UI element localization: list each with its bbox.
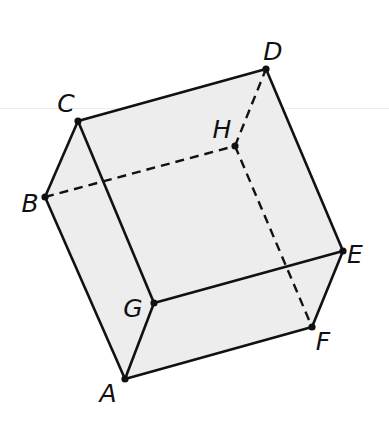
vertex-label-b: B <box>21 191 38 216</box>
vertex-B <box>41 193 48 200</box>
vertex-F <box>308 323 315 330</box>
vertex-D <box>262 65 269 72</box>
vertex-A <box>121 375 128 382</box>
vertex-G <box>150 299 157 306</box>
prism-fill <box>45 69 343 379</box>
vertex-E <box>339 247 346 254</box>
vertex-label-f: F <box>316 329 330 354</box>
vertex-C <box>74 117 81 124</box>
vertex-label-e: E <box>347 242 363 267</box>
vertex-label-h: H <box>213 117 232 142</box>
prism-diagram <box>0 0 389 422</box>
vertex-label-c: C <box>57 91 74 116</box>
vertex-label-a: A <box>99 381 116 406</box>
vertex-label-g: G <box>123 296 142 321</box>
vertex-label-d: D <box>263 39 282 64</box>
vertex-H <box>231 142 238 149</box>
